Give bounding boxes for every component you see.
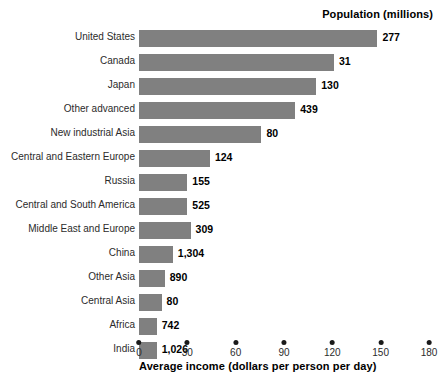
- bar-container: [139, 174, 187, 191]
- chart-row: China1,304: [0, 244, 441, 268]
- bar-value-label: 309: [196, 223, 214, 235]
- chart-row: Central and Eastern Europe124: [0, 148, 441, 172]
- x-axis-tick-label: 60: [230, 347, 241, 358]
- x-axis-tick-label: 0: [136, 347, 142, 358]
- category-label: Central and South America: [3, 199, 135, 211]
- category-label: Central and Eastern Europe: [3, 151, 135, 163]
- bar-container: [139, 198, 187, 215]
- tick-dot-icon: [137, 340, 142, 345]
- tick-dot-icon: [427, 340, 432, 345]
- bar-container: [139, 222, 191, 239]
- chart-series-title: Population (millions): [322, 8, 433, 20]
- bar-value-label: 155: [192, 175, 210, 187]
- chart-row: Other advanced439: [0, 100, 441, 124]
- bar: [139, 150, 210, 167]
- bar-value-label: 277: [382, 31, 400, 43]
- bar: [139, 198, 187, 215]
- bar-container: [139, 102, 295, 119]
- chart-row: Africa742: [0, 316, 441, 340]
- chart-row: New industrial Asia80: [0, 124, 441, 148]
- bar-value-label: 1,304: [178, 247, 204, 259]
- bar-container: [139, 78, 316, 95]
- bar-container: [139, 294, 162, 311]
- tick-dot-icon: [330, 340, 335, 345]
- category-label: Central Asia: [3, 295, 135, 307]
- x-axis-tick-label: 120: [324, 347, 341, 358]
- bar-value-label: 525: [192, 199, 210, 211]
- bar: [139, 78, 316, 95]
- x-axis-tick: 60: [230, 340, 241, 358]
- category-label: Other advanced: [3, 103, 135, 115]
- x-axis-tick: 90: [278, 340, 289, 358]
- category-label: Russia: [3, 175, 135, 187]
- bar-value-label: 31: [339, 55, 351, 67]
- chart-row: Japan130: [0, 76, 441, 100]
- x-axis-title: Average income (dollars per person per d…: [139, 360, 376, 372]
- bar-container: [139, 318, 157, 335]
- tick-dot-icon: [378, 340, 383, 345]
- bar: [139, 102, 295, 119]
- bar-container: [139, 30, 377, 47]
- x-axis-tick-label: 150: [372, 347, 389, 358]
- tick-dot-icon: [233, 340, 238, 345]
- chart-row: Central Asia80: [0, 292, 441, 316]
- x-axis-tick: 180: [421, 340, 438, 358]
- chart-row: Middle East and Europe309: [0, 220, 441, 244]
- bar-value-label: 890: [170, 271, 188, 283]
- bar: [139, 294, 162, 311]
- bar: [139, 126, 261, 143]
- x-axis-tick-label: 30: [182, 347, 193, 358]
- category-label: United States: [3, 31, 135, 43]
- category-label: Canada: [3, 55, 135, 67]
- category-label: Other Asia: [3, 271, 135, 283]
- bar: [139, 222, 191, 239]
- bar-chart: Population (millions) United States277Ca…: [0, 0, 441, 379]
- chart-row: United States277: [0, 28, 441, 52]
- bar: [139, 270, 165, 287]
- x-axis-tick: 0: [136, 340, 142, 358]
- x-axis-tick: 150: [372, 340, 389, 358]
- bar-value-label: 742: [162, 319, 180, 331]
- bar-value-label: 80: [266, 127, 278, 139]
- bar: [139, 54, 334, 71]
- x-axis-tick: 120: [324, 340, 341, 358]
- bar-container: [139, 54, 334, 71]
- tick-dot-icon: [185, 340, 190, 345]
- bar: [139, 174, 187, 191]
- tick-dot-icon: [282, 340, 287, 345]
- x-axis-tick-label: 180: [421, 347, 438, 358]
- chart-row: Russia155: [0, 172, 441, 196]
- bar-value-label: 130: [321, 79, 339, 91]
- bar-container: [139, 270, 165, 287]
- chart-row: Other Asia890: [0, 268, 441, 292]
- bar-container: [139, 246, 173, 263]
- bar: [139, 318, 157, 335]
- category-label: New industrial Asia: [3, 127, 135, 139]
- bar-container: [139, 150, 210, 167]
- category-label: Africa: [3, 319, 135, 331]
- bar-value-label: 439: [300, 103, 318, 115]
- x-axis-tick: 30: [182, 340, 193, 358]
- x-axis: Average income (dollars per person per d…: [0, 340, 441, 379]
- bar-container: [139, 126, 261, 143]
- bar: [139, 30, 377, 47]
- category-label: China: [3, 247, 135, 259]
- bar: [139, 246, 173, 263]
- chart-plot-area: United States277Canada31Japan130Other ad…: [0, 28, 441, 364]
- bar-value-label: 124: [215, 151, 233, 163]
- chart-row: Canada31: [0, 52, 441, 76]
- category-label: Japan: [3, 79, 135, 91]
- category-label: Middle East and Europe: [3, 223, 135, 235]
- x-axis-tick-label: 90: [278, 347, 289, 358]
- bar-value-label: 80: [167, 295, 179, 307]
- chart-row: Central and South America525: [0, 196, 441, 220]
